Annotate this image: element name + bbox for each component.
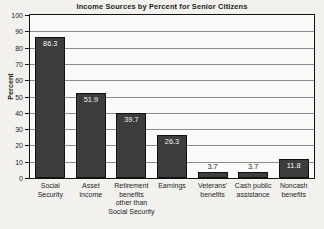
bar-value-label: 51.9 bbox=[76, 95, 106, 104]
bar bbox=[76, 93, 106, 178]
x-label-line: benefits bbox=[108, 191, 155, 200]
y-tick-label-60: 60 bbox=[15, 77, 23, 84]
y-tick-mark-10 bbox=[25, 162, 29, 163]
y-tick-label-40: 40 bbox=[15, 109, 23, 116]
x-label-1: Assetincome bbox=[68, 182, 115, 199]
bar-slot: 11.8 bbox=[279, 15, 309, 178]
bar-value-label: 26.3 bbox=[157, 137, 187, 146]
x-label-line: Asset bbox=[68, 182, 115, 191]
bar-slot: 51.9 bbox=[76, 15, 106, 178]
y-tick-label-30: 30 bbox=[15, 126, 23, 133]
bar-value-label: 86.3 bbox=[35, 39, 65, 48]
y-tick-mark-50 bbox=[25, 97, 29, 98]
y-tick-mark-40 bbox=[25, 113, 29, 114]
bar-slot: 26.3 bbox=[157, 15, 187, 178]
bar-value-label: 3.7 bbox=[238, 162, 268, 171]
y-tick-label-10: 10 bbox=[15, 158, 23, 165]
y-tick-label-90: 90 bbox=[15, 28, 23, 35]
bar bbox=[198, 172, 228, 178]
y-tick-mark-90 bbox=[25, 31, 29, 32]
x-label-line: Social Security bbox=[108, 208, 155, 217]
x-label-6: Noncashbenefits bbox=[270, 182, 317, 199]
bar-value-label: 11.8 bbox=[279, 161, 309, 170]
y-tick-label-100: 100 bbox=[11, 12, 23, 19]
bar-slot: 3.7 bbox=[198, 15, 228, 178]
y-tick-mark-70 bbox=[25, 64, 29, 65]
x-axis-labels: SocialSecurityAssetincomeRetirementbenef… bbox=[30, 182, 314, 228]
y-tick-mark-100 bbox=[25, 15, 29, 16]
x-label-line: other than bbox=[108, 199, 155, 208]
y-tick-label-50: 50 bbox=[15, 93, 23, 100]
chart-title: Income Sources by Percent for Senior Cit… bbox=[0, 2, 324, 11]
bar-slot: 86.3 bbox=[35, 15, 65, 178]
y-tick-mark-0 bbox=[25, 178, 29, 179]
x-label-line: Noncash bbox=[270, 182, 317, 191]
y-tick-label-70: 70 bbox=[15, 60, 23, 67]
x-label-line: income bbox=[68, 191, 115, 200]
x-label-5: Cash publicassistance bbox=[230, 182, 277, 199]
y-tick-mark-60 bbox=[25, 80, 29, 81]
bar-value-label: 3.7 bbox=[198, 162, 228, 171]
y-tick-label-20: 20 bbox=[15, 142, 23, 149]
y-tick-mark-80 bbox=[25, 48, 29, 49]
y-tick-mark-20 bbox=[25, 145, 29, 146]
y-axis: 1009080706050403020100 bbox=[0, 14, 29, 179]
bars-layer: 86.351.939.726.33.73.711.8 bbox=[30, 15, 314, 178]
bar-chart-figure: Income Sources by Percent for Senior Cit… bbox=[0, 0, 324, 229]
x-label-line: benefits bbox=[270, 191, 317, 200]
bar bbox=[238, 172, 268, 178]
bar-slot: 3.7 bbox=[238, 15, 268, 178]
x-label-line: assistance bbox=[230, 191, 277, 200]
x-label-3: Earnings bbox=[149, 182, 196, 191]
bar bbox=[35, 37, 65, 178]
bar-slot: 39.7 bbox=[116, 15, 146, 178]
x-label-line: Cash public bbox=[230, 182, 277, 191]
y-tick-label-80: 80 bbox=[15, 44, 23, 51]
bar-value-label: 39.7 bbox=[116, 115, 146, 124]
x-label-line: Earnings bbox=[149, 182, 196, 191]
y-tick-mark-30 bbox=[25, 129, 29, 130]
y-tick-label-0: 0 bbox=[19, 175, 23, 182]
